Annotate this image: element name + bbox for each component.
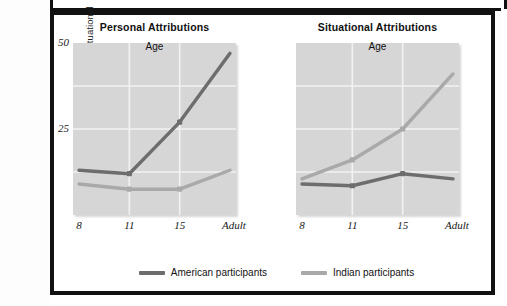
series-line [302,74,453,179]
x-tick-label: 15 [174,219,185,231]
series-line [302,174,453,186]
legend: American participants Indian participant… [54,267,499,278]
data-point-marker [400,171,405,176]
data-point-marker [127,187,132,192]
x-tick-label: 11 [124,219,134,231]
x-tick-label: Adult [222,219,246,231]
legend-swatch-indian [301,271,327,275]
data-point-marker [177,187,182,192]
data-point-marker [400,126,405,131]
x-tick-label: 15 [397,219,408,231]
legend-item: Indian participants [301,267,414,278]
plot-area: 502581115Adult [73,43,236,215]
legend-item: American participants [139,267,267,278]
legend-swatch-american [139,271,165,275]
legend-label: American participants [171,267,267,278]
data-point-marker [350,157,355,162]
figure-frame: Proportion of personal and situational a… [50,11,495,295]
x-tick-label: 11 [347,219,357,231]
plot-svg [73,43,236,215]
data-point-marker [127,171,132,176]
plot-svg [296,43,459,215]
x-tick-label: Adult [445,219,469,231]
x-tick-label: 8 [76,219,82,231]
x-axis-title: Age [73,41,236,52]
frame-bottom-gap [50,295,501,306]
series-line [79,53,230,173]
plot-area: 81115Adult [296,43,459,215]
x-axis-title: Age [296,41,459,52]
chart-title: Situational Attributions [296,21,459,33]
data-point-marker [350,183,355,188]
legend-label: Indian participants [333,267,414,278]
y-tick-label: 25 [58,122,69,134]
data-point-marker [177,120,182,125]
y-tick-label: 50 [58,36,69,48]
chart-title: Personal Attributions [73,21,236,33]
x-tick-label: 8 [299,219,305,231]
